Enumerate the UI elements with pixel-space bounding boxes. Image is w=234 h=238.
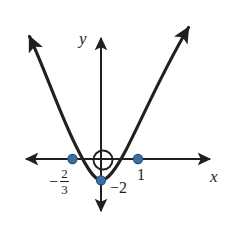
point-y-intercept — [96, 176, 105, 185]
x-axis-label: x — [210, 168, 218, 185]
fraction-numerator: 2 — [60, 167, 69, 181]
y-axis-label: y — [79, 30, 87, 47]
parabola-figure: y x − 2 3 1 −2 — [0, 0, 234, 238]
origin-open-circle-marker — [94, 151, 113, 170]
graph-canvas — [0, 0, 234, 238]
tick-label-y-intercept: −2 — [110, 180, 127, 196]
minus-sign: − — [49, 174, 58, 190]
point-x-intercept-right — [133, 154, 142, 163]
tick-label-x-intercept-right: 1 — [137, 167, 145, 183]
point-x-intercept-left — [68, 154, 77, 163]
tick-label-x-intercept-left: − 2 3 — [49, 167, 69, 196]
fraction-two-thirds: 2 3 — [60, 167, 69, 196]
fraction-denominator: 3 — [60, 183, 69, 197]
